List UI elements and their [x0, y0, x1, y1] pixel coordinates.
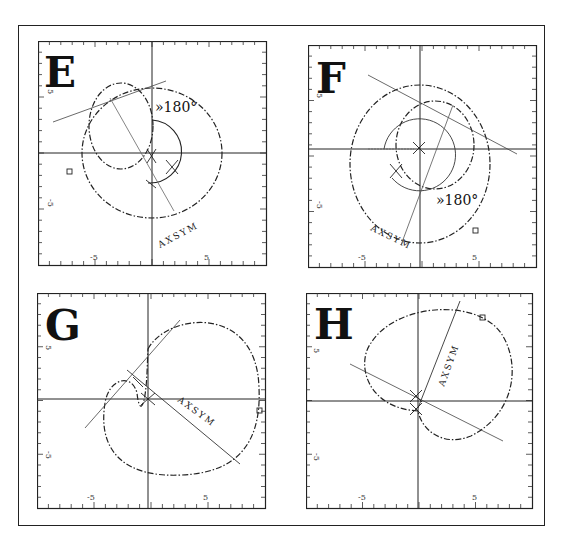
axsym-line	[401, 105, 453, 245]
y-tick-label-pos: 5	[44, 345, 53, 350]
x-tick-label-pos: 5	[472, 493, 477, 502]
panel-h: H 5 -5 -5 5 AXSYM	[306, 293, 536, 511]
y-tick-label-neg: -5	[44, 451, 53, 459]
y-tick-label-neg: -5	[315, 201, 324, 209]
start-marker	[473, 228, 478, 233]
x-tick-label-neg: -5	[358, 253, 366, 262]
y-tick-label-pos: 5	[315, 93, 324, 98]
cross-markers	[146, 149, 178, 188]
panel-e: E 5 -5 -5 5 »180° AXSYM	[38, 41, 268, 267]
rotation-annotation: »180°	[155, 99, 197, 115]
x-tick-label-pos: 5	[204, 253, 209, 262]
y-tick-label-neg: -5	[312, 453, 321, 461]
x-tick-label-pos: 5	[472, 253, 477, 262]
x-tick-label-pos: 5	[203, 493, 208, 502]
axsym-label: AXSYM	[436, 343, 461, 389]
trajectory-inner	[396, 101, 474, 189]
axsym-label: AXSYM	[368, 222, 413, 251]
x-tick-label-neg: -5	[358, 493, 366, 502]
y-tick-label-pos: 5	[312, 348, 321, 353]
axsym-line	[127, 370, 240, 464]
trajectory	[365, 310, 513, 440]
y-tick-label-neg: -5	[46, 199, 55, 207]
tangent-line	[368, 75, 517, 154]
panel-label: G	[45, 301, 81, 350]
panel-f: F 5 -5 -5 5 »180° AXSYM	[308, 45, 538, 271]
tangent-line	[350, 364, 503, 441]
panel-g: G 5 -5 -5 5 AXSYM	[37, 293, 267, 511]
y-tick-label-pos: 5	[46, 89, 55, 94]
x-tick-label-neg: -5	[90, 253, 98, 262]
rotation-annotation: »180°	[436, 192, 478, 208]
x-tick-label-neg: -5	[87, 493, 95, 502]
trajectory-inner	[89, 83, 153, 169]
panel-label: H	[314, 300, 354, 349]
start-marker	[67, 169, 72, 174]
axsym-label: AXSYM	[155, 220, 200, 250]
